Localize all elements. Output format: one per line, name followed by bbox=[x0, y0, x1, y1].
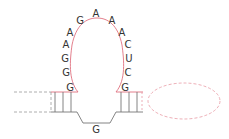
nucleotide: C bbox=[125, 67, 132, 78]
nucleotide: A bbox=[93, 8, 100, 19]
nucleotide: A bbox=[63, 39, 70, 50]
rna-hairpin-diagram: G G G A A G A A A C U C G G bbox=[0, 0, 229, 139]
nucleotide: A bbox=[67, 27, 74, 38]
nucleotide: C bbox=[125, 39, 132, 50]
nucleotide: G bbox=[121, 82, 129, 93]
right-stem bbox=[116, 92, 143, 112]
left-stem bbox=[51, 92, 78, 112]
bulge-strand bbox=[77, 112, 116, 123]
bulge-nucleotide: G bbox=[92, 124, 100, 135]
dashed-loop-ellipse bbox=[148, 83, 220, 119]
nucleotide: G bbox=[62, 67, 70, 78]
hairpin-loop bbox=[70, 18, 123, 92]
nucleotide: G bbox=[76, 15, 84, 26]
nucleotide: A bbox=[119, 27, 126, 38]
nucleotide: A bbox=[109, 15, 116, 26]
left-dashed-strands bbox=[14, 92, 51, 112]
nucleotide: G bbox=[61, 53, 69, 64]
nucleotide: G bbox=[66, 82, 74, 93]
nucleotide: U bbox=[125, 53, 132, 64]
